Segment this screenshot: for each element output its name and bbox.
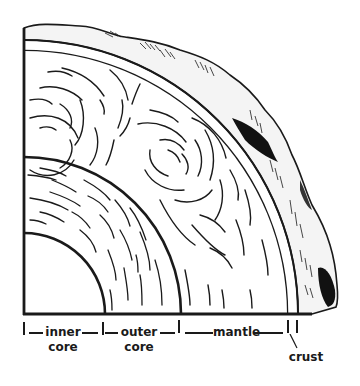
dash: [82, 332, 98, 334]
dash: [105, 332, 118, 334]
dash: [185, 332, 213, 334]
label-mantle-line1: mantle: [213, 325, 254, 340]
label-outer-core-line1: outer: [119, 325, 159, 340]
label-crust: crust: [286, 350, 326, 365]
dash: [29, 332, 43, 334]
tick-outer-core-end: [178, 320, 180, 333]
crust-leader-line: [288, 334, 300, 350]
label-crust-line1: crust: [286, 350, 326, 365]
label-inner-core-line1: inner: [44, 325, 82, 340]
tick-inner-core-start: [23, 322, 25, 335]
tick-inner-core-end: [102, 322, 104, 335]
dash: [160, 332, 175, 334]
label-inner-core: inner core: [44, 325, 82, 355]
tick-crust-end: [296, 320, 298, 333]
label-outer-core: outer core: [119, 325, 159, 355]
label-inner-core-line2: core: [44, 340, 82, 355]
label-mantle: mantle: [213, 325, 254, 340]
tick-mantle-end: [287, 320, 289, 333]
label-outer-core-line2: core: [119, 340, 159, 355]
